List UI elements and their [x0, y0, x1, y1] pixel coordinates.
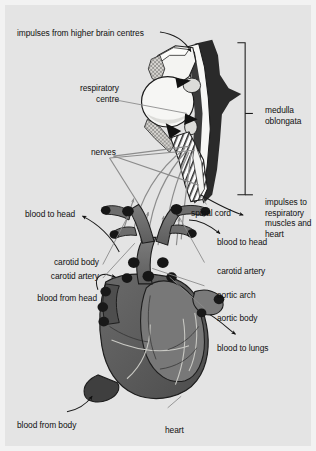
label-impulses-to-muscles: impulses to respiratory muscles and hear… — [265, 197, 311, 239]
label-blood-to-head-right: blood to head — [217, 237, 267, 248]
label-blood-from-head: blood from head — [13, 293, 97, 304]
leader-carotid-body — [103, 216, 128, 264]
vena-cava-inferior — [84, 375, 119, 402]
label-nerves: nerves — [91, 147, 116, 158]
label-impulses-from-brain: impulses from higher brain centres — [17, 28, 144, 39]
label-blood-to-lungs: blood to lungs — [217, 343, 268, 354]
nerves-leader-2 — [110, 158, 143, 210]
aortic-body-left — [128, 257, 140, 268]
carotid-nodule-lt — [101, 206, 111, 215]
label-aortic-body: aortic body — [217, 313, 257, 324]
leader-heart — [168, 396, 182, 408]
label-spinal-cord: spinal cord — [191, 208, 231, 219]
aortic-body-lower-l — [122, 273, 133, 283]
label-aortic-arch: aortic arch — [217, 290, 256, 301]
label-heart: heart — [165, 425, 184, 436]
carotid-nodule-lm — [110, 230, 120, 239]
label-respiratory-centre: respiratory centre — [67, 83, 119, 104]
label-medulla-oblongata: medulla oblongata — [265, 105, 301, 126]
medulla-oblongata-group — [142, 40, 242, 204]
label-carotid-artery-left: carotid artery — [19, 271, 99, 282]
label-blood-to-head-left: blood to head — [25, 209, 75, 220]
label-carotid-artery-right: carotid artery — [217, 266, 265, 277]
carotid-body-left — [122, 206, 134, 217]
leader-carotid-artery-r — [179, 217, 204, 263]
carotid-body-right — [171, 204, 183, 215]
label-carotid-body: carotid body — [23, 257, 99, 268]
figure-panel: impulses from higher brain centres respi… — [0, 0, 316, 451]
aortic-body-centre — [142, 271, 154, 282]
pulmonary-nodule-2 — [197, 309, 207, 318]
aortic-body-right — [157, 257, 169, 268]
medulla-bracket — [237, 43, 252, 195]
label-blood-from-body: blood from body — [17, 420, 76, 431]
heart-and-vessels — [84, 204, 224, 402]
